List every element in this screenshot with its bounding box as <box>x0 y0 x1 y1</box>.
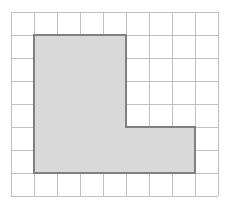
grid-figure <box>0 0 251 212</box>
grid-shape-svg <box>0 0 251 212</box>
